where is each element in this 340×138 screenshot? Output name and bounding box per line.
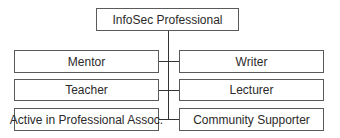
- node-lecturer: Lecturer: [179, 79, 324, 101]
- root-label: InfoSec Professional: [112, 13, 222, 27]
- node-label: Community Supporter: [193, 113, 310, 127]
- root-node: InfoSec Professional: [96, 8, 239, 31]
- node-label: Writer: [236, 55, 268, 69]
- node-community-supporter: Community Supporter: [179, 108, 324, 131]
- connector-row-2: [158, 90, 179, 91]
- node-active-in-professional-assoc: Active in Professional Assoc.: [14, 108, 159, 131]
- node-label: Mentor: [68, 55, 105, 69]
- node-mentor: Mentor: [14, 50, 159, 73]
- node-writer: Writer: [179, 50, 324, 73]
- node-label: Active in Professional Assoc.: [10, 113, 163, 127]
- trunk-line: [168, 30, 169, 120]
- connector-row-1: [158, 61, 179, 62]
- node-label: Teacher: [65, 83, 108, 97]
- node-label: Lecturer: [229, 83, 273, 97]
- node-teacher: Teacher: [14, 79, 159, 101]
